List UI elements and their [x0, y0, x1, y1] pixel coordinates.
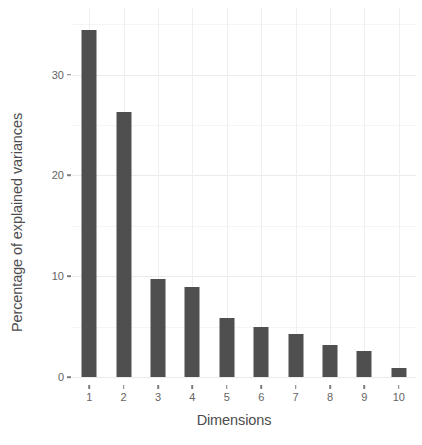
bar — [219, 318, 234, 377]
x-tick-mark — [192, 385, 194, 389]
gridline-vertical — [364, 8, 365, 377]
x-tick-mark — [226, 385, 228, 389]
x-tick-label: 4 — [189, 391, 195, 403]
y-tick-label: 10 — [34, 270, 64, 282]
plot-panel — [72, 8, 416, 377]
x-tick-mark — [157, 385, 159, 389]
x-tick-mark — [295, 385, 297, 389]
y-axis-title: Percentage of explained variances — [0, 0, 34, 445]
x-tick-mark — [260, 385, 262, 389]
y-tick-mark — [67, 74, 71, 76]
x-axis-title: Dimensions — [46, 412, 422, 428]
bar — [357, 351, 372, 377]
x-tick-mark — [88, 385, 90, 389]
gridline-vertical — [399, 8, 400, 377]
y-tick-label: 20 — [34, 169, 64, 181]
scree-plot: Percentage of explained variances 010203… — [0, 0, 422, 445]
x-tick-label: 5 — [224, 391, 230, 403]
bar — [288, 334, 303, 377]
y-tick-mark — [67, 275, 71, 277]
bar — [391, 368, 406, 377]
x-tick-label: 1 — [86, 391, 92, 403]
gridline-vertical — [330, 8, 331, 377]
x-tick-mark — [123, 385, 125, 389]
bar — [151, 279, 166, 377]
x-tick-label: 9 — [361, 391, 367, 403]
x-tick-mark — [398, 385, 400, 389]
x-tick-label: 8 — [327, 391, 333, 403]
gridline-major — [72, 377, 416, 378]
y-tick-mark — [67, 175, 71, 177]
x-tick-label: 3 — [155, 391, 161, 403]
x-tick-label: 6 — [258, 391, 264, 403]
bar — [323, 345, 338, 377]
bar — [82, 30, 97, 377]
y-tick-label: 30 — [34, 69, 64, 81]
x-tick-label: 10 — [393, 391, 405, 403]
bar — [116, 112, 131, 377]
x-tick-mark — [329, 385, 331, 389]
gridline-vertical — [296, 8, 297, 377]
y-tick-label: 0 — [34, 371, 64, 383]
x-tick-label: 7 — [293, 391, 299, 403]
x-tick-mark — [364, 385, 366, 389]
x-tick-label: 2 — [121, 391, 127, 403]
bar — [185, 287, 200, 377]
gridline-vertical — [261, 8, 262, 377]
bar — [254, 327, 269, 377]
y-tick-mark — [67, 376, 71, 378]
